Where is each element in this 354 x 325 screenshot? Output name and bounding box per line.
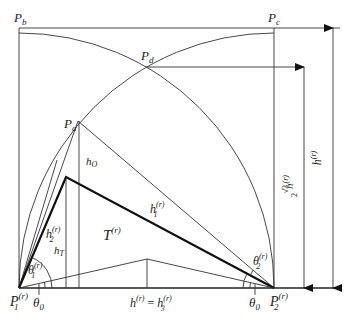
label-base: h(r) = h(r)3 bbox=[130, 294, 172, 313]
label-dim-inner: √32h(r) bbox=[281, 175, 299, 197]
edge-pa-p2 bbox=[78, 121, 274, 288]
label-pa: Pa bbox=[63, 116, 77, 133]
label-theta0-right: θ0 bbox=[249, 295, 260, 312]
label-pb: Pb bbox=[13, 10, 27, 27]
label-h2: h(r)2 bbox=[46, 225, 61, 244]
label-theta2: θ(r)2 bbox=[253, 252, 268, 271]
svg-text:√32h(r): √32h(r) bbox=[281, 175, 299, 197]
low-triangle bbox=[19, 259, 274, 288]
label-triangle-t: T(r) bbox=[103, 225, 121, 243]
angle-arc-theta0-left bbox=[45, 282, 46, 288]
label-h1: h(r)1 bbox=[150, 200, 165, 219]
svg-text:h(r): h(r) bbox=[309, 150, 324, 165]
angle-arc-theta0-right bbox=[250, 283, 251, 289]
label-p2: P(r)2 bbox=[269, 291, 288, 312]
label-theta1: θ(r)1 bbox=[28, 261, 43, 280]
label-p1: P(r)1 bbox=[9, 291, 28, 312]
angle-arc-theta2 bbox=[243, 274, 247, 289]
label-pc: Pc bbox=[267, 10, 280, 27]
label-ho: hO bbox=[86, 155, 98, 169]
label-theta0-left: θ0 bbox=[33, 295, 44, 312]
label-dim-outer: h(r) bbox=[309, 150, 324, 165]
label-pd: Pd bbox=[140, 48, 154, 65]
label-ht: hT bbox=[54, 244, 65, 258]
geometry-diagram: Pb Pc Pd Pa P(r)1 P(r)2 hO hT h(r)2 h(r)… bbox=[0, 0, 354, 325]
